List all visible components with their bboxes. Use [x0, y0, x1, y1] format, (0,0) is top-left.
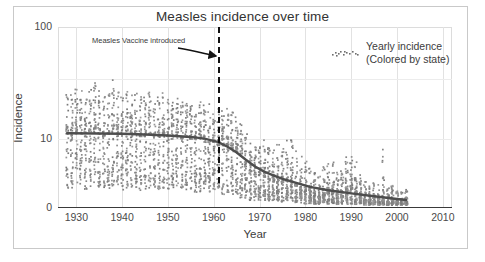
legend-line-1: Yearly incidence	[366, 40, 442, 52]
y-tick-100: 100	[8, 20, 52, 32]
legend-scatter-marker-icon	[330, 48, 360, 58]
x-axis-line	[58, 207, 452, 208]
y-tick-0: 0	[8, 201, 52, 213]
vaccine-annotation-arrow-icon	[150, 38, 225, 64]
y-axis-title: Incidence	[12, 78, 24, 158]
trend-line-path	[67, 133, 406, 200]
x-axis-title: Year	[58, 228, 452, 240]
chart-title: Measles incidence over time	[0, 9, 485, 24]
legend-line-2: (Colored by state)	[366, 53, 449, 66]
legend-text: Yearly incidence (Colored by state)	[366, 40, 449, 66]
x-tick-2010: 2010	[413, 211, 473, 223]
measles-incidence-figure: Measles incidence over time Measles Vacc…	[0, 0, 485, 262]
